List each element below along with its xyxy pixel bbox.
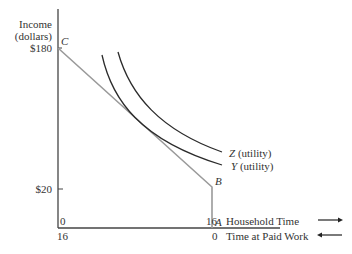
chart-canvas [0, 0, 352, 254]
curve-label-z-letter: Z [229, 147, 235, 159]
point-label-b: B [215, 175, 222, 187]
y-tick-label-20: $20 [14, 183, 52, 195]
curve-label-z-suffix: (utility) [238, 147, 272, 159]
x-tick-bottom-0: 0 [212, 230, 218, 242]
curve-label-z: Z (utility) [229, 147, 271, 159]
x-axis-label-household-time: Household Time [226, 215, 299, 227]
x-axis-label-paid-work: Time at Paid Work [226, 230, 309, 242]
point-label-c: C [61, 35, 68, 47]
curve-label-y: Y (utility) [231, 160, 273, 172]
indifference-curve-z [118, 52, 222, 152]
x-tick-bottom-16: 16 [57, 230, 68, 242]
y-axis-label-line2: (dollars) [4, 30, 52, 42]
arrow-right-head-icon [338, 218, 343, 223]
y-tick-label-180: $180 [14, 42, 52, 54]
x-tick-top-0: 0 [60, 215, 66, 227]
y-axis-label-line1: Income [8, 18, 52, 30]
arrow-left-head-icon [317, 233, 322, 238]
indifference-curve-y [102, 55, 222, 165]
curve-label-y-letter: Y [231, 160, 237, 172]
x-tick-top-16: 16 [206, 215, 217, 227]
curve-label-y-suffix: (utility) [240, 160, 274, 172]
